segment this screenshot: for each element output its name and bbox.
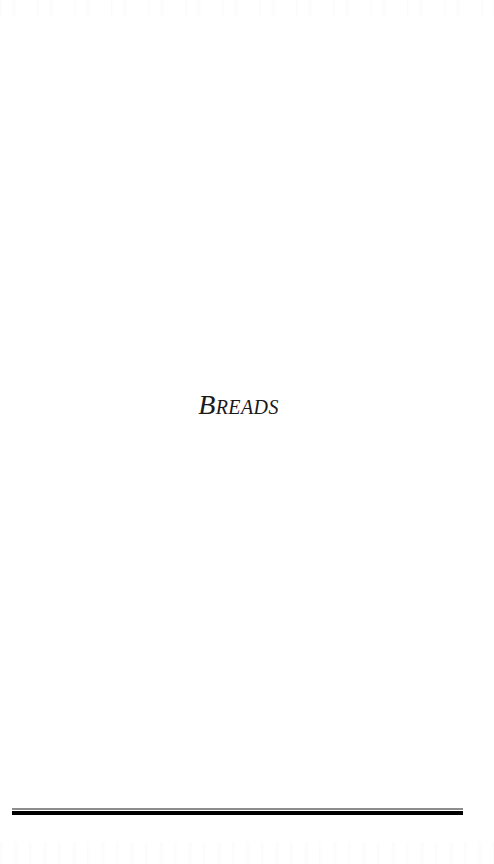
footer-rule	[12, 808, 463, 817]
footer-rule-thick-line	[12, 811, 463, 815]
scan-noise-top	[0, 0, 494, 16]
scanned-page: Breads	[0, 0, 494, 864]
page-title: Breads	[0, 390, 477, 420]
scan-noise-bottom	[0, 842, 494, 864]
